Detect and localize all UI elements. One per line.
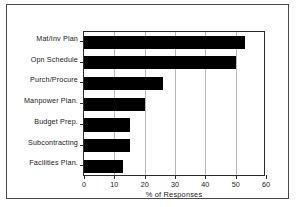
bar-row: Opn Schedule [84, 53, 264, 74]
bar [84, 36, 245, 49]
category-label: Mat/Inv Plan [36, 34, 78, 44]
category-label: Opn Schedule [31, 55, 78, 65]
bar [84, 160, 123, 173]
x-tick-label-10: 10 [110, 180, 118, 189]
category-label: Facilities Plan. [29, 158, 78, 168]
bar [84, 139, 130, 152]
y-tick [80, 103, 84, 104]
bar-row: Budget Prep. [84, 115, 264, 136]
x-tick-label-30: 30 [171, 180, 179, 189]
bar-row: Mat/Inv Plan [84, 32, 264, 53]
y-tick [80, 62, 84, 63]
x-tick-label-0: 0 [82, 180, 86, 189]
category-label: Manpower Plan. [24, 96, 78, 106]
bar [84, 77, 163, 90]
category-label: Subcontracting [28, 138, 78, 148]
y-tick [80, 82, 84, 83]
x-tick-label-20: 20 [141, 180, 149, 189]
x-tick-60 [266, 175, 267, 179]
bar-series: Mat/Inv PlanOpn SchedulePurch/ProcureMan… [84, 32, 264, 175]
bar-row: Subcontracting [84, 136, 264, 157]
bar-row: Facilities Plan. [84, 156, 264, 177]
y-tick [80, 41, 84, 42]
bar [84, 98, 145, 111]
bar-row: Purch/Procure [84, 73, 264, 94]
bar [84, 118, 130, 131]
bar-chart-figure: 0102030405060 Mat/Inv PlanOpn SchedulePu… [0, 0, 297, 207]
plot-area: 0102030405060 Mat/Inv PlanOpn SchedulePu… [83, 31, 265, 176]
y-tick [80, 145, 84, 146]
y-tick [80, 165, 84, 166]
x-tick-label-50: 50 [232, 180, 240, 189]
category-label: Budget Prep. [34, 117, 78, 127]
y-tick [80, 124, 84, 125]
x-tick-label-60: 60 [262, 180, 270, 189]
x-axis-title: % of Responses [83, 190, 265, 199]
x-tick-label-40: 40 [201, 180, 209, 189]
bar [84, 56, 236, 69]
bar-row: Manpower Plan. [84, 94, 264, 115]
category-label: Purch/Procure [30, 75, 78, 85]
